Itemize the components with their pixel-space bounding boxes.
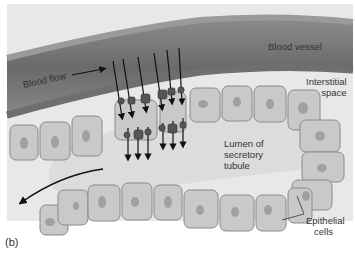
label-lumen-line3: tubule bbox=[224, 160, 264, 171]
label-epithelial-line1: Epithelial bbox=[306, 215, 345, 226]
label-epithelial-line2: cells bbox=[306, 226, 345, 237]
label-blood-vessel: Blood vessel bbox=[268, 41, 322, 52]
figure-caption: (b) bbox=[5, 236, 18, 248]
label-lumen-line2: secretory bbox=[224, 149, 264, 160]
secretion-diagram bbox=[0, 0, 355, 266]
label-interstitial-line2: space bbox=[306, 87, 347, 98]
label-lumen-line1: Lumen of bbox=[224, 138, 264, 149]
label-epithelial-cells: Epithelial cells bbox=[306, 215, 345, 237]
label-interstitial-space: Interstitial space bbox=[306, 76, 347, 98]
label-interstitial-line1: Interstitial bbox=[306, 76, 347, 87]
label-lumen: Lumen of secretory tubule bbox=[224, 138, 264, 171]
